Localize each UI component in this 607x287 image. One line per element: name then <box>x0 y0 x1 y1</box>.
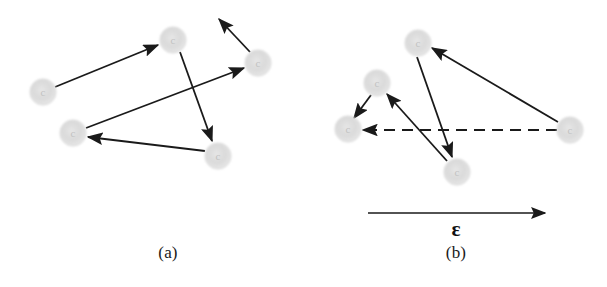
node-b-bottom-glyph: c <box>455 166 460 178</box>
node-b-far-left-glyph: c <box>346 123 351 135</box>
figure-background <box>0 0 607 287</box>
panel-a-caption: (a) <box>158 243 177 262</box>
node-a-lower-left-glyph: c <box>71 127 76 139</box>
node-a-lower-right-glyph: c <box>216 150 221 162</box>
node-b-top-glyph: c <box>416 37 421 49</box>
node-a-right-glyph: c <box>256 57 261 69</box>
node-a-top-glyph: c <box>171 34 176 46</box>
node-b-upper-left-glyph: c <box>375 77 380 89</box>
node-b-far-right-glyph: c <box>568 124 573 136</box>
node-a-left-glyph: c <box>41 86 46 98</box>
field-label-epsilon: ɛ <box>452 217 461 241</box>
panel-b-caption: (b) <box>446 243 466 262</box>
figure-root: c c c c c (a) <box>0 0 607 287</box>
figure-canvas: c c c c c (a) <box>0 0 607 287</box>
